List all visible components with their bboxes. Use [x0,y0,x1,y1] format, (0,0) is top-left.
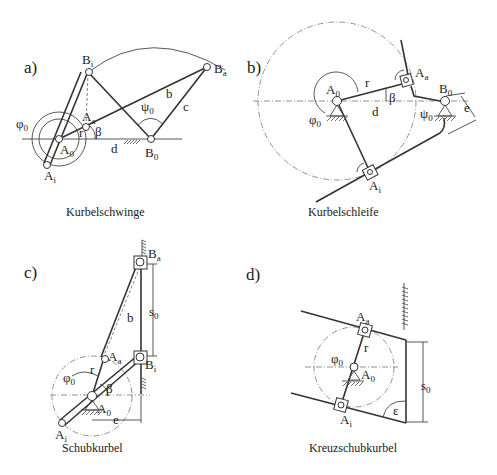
pin-ba [136,258,144,266]
label-d: d [372,104,379,119]
pin-ai [368,170,373,175]
label-ai: Ai [340,412,352,429]
panel-b-label: b) [247,58,261,77]
pin-aa [404,78,409,83]
ground-hatch-icon [124,140,140,144]
label-beta: β [106,381,113,396]
label-s0: s0 [149,304,159,321]
label-aa: Aa [356,309,369,326]
label-phi0: φ0 [331,351,344,368]
label-r: r [90,362,95,377]
label-ba: Ba [148,246,161,263]
panel-b-kurbelschleife: b) [247,22,476,219]
label-b0: B0 [439,81,453,98]
label-r: r [365,75,370,90]
support-b0 [438,105,452,116]
label-e: e [464,100,470,115]
label-beta: β [389,90,396,105]
panel-d-kreuzschubkurbel: d) [246,265,431,455]
label-aa: Aa [108,349,121,366]
mechanism-diagrams: a) A0 Aa [0,0,497,475]
pin-bi [136,353,144,361]
label-beta: β [95,124,102,139]
label-a0: A0 [97,401,111,418]
joint-ai [59,420,66,427]
ground-hatch-icon [343,382,363,386]
link-c [151,67,207,139]
label-phi0: φ0 [63,370,76,387]
label-s0: s0 [421,378,431,395]
label-bi: Bi [145,357,157,374]
label-ai: Ai [369,178,381,195]
panel-c-label: c) [24,263,37,282]
label-d: d [111,141,118,156]
joint-aa [83,124,90,131]
label-psi0: ψ0 [420,106,433,123]
label-psi0: ψ0 [141,99,154,116]
upper-guide [301,311,406,340]
label-phi0: φ0 [309,112,322,129]
joint-a0 [350,363,358,371]
pin-aa [362,327,368,333]
caption-b: Kurbelschleife [308,205,379,219]
joint-bi [86,69,93,76]
joint-a0 [88,392,97,401]
label-a0: A0 [361,367,375,384]
label-aa: Aa [415,65,428,82]
panel-c-schubkurbel: c) [24,240,161,455]
label-phi0: φ0 [16,116,29,133]
dashed-coupler [103,264,141,358]
guide-hatch-icon [402,287,408,325]
pin-ai [338,402,344,408]
label-epsilon: ε [393,403,399,418]
label-ba: Ba [214,61,227,78]
panel-a-label: a) [24,58,37,77]
caption-a: Kurbelschwinge [66,205,145,219]
joint-ba [204,64,211,71]
label-aa: Aa [82,109,95,126]
label-r: r [79,125,84,140]
label-a0: A0 [326,82,340,99]
label-e: e [113,412,119,427]
dim-e-ext2 [448,120,476,134]
psi0-arc [138,118,163,125]
label-a0: A0 [60,142,74,159]
label-b: b [127,310,134,325]
label-r: r [364,340,369,355]
panel-a-kurbelschwinge: a) A0 Aa [16,48,227,219]
label-b: b [166,86,173,101]
joint-b0 [148,136,155,143]
label-b0: B0 [145,145,159,162]
label-bi: Bi [82,52,94,69]
label-ai: Ai [44,168,56,185]
caption-d: Kreuzschubkurbel [309,441,398,455]
label-c: c [183,99,189,114]
crank-aa [337,83,406,101]
caption-c: Schubkurbel [62,441,123,455]
crank-ai [337,101,370,172]
panel-d-label: d) [246,265,260,284]
